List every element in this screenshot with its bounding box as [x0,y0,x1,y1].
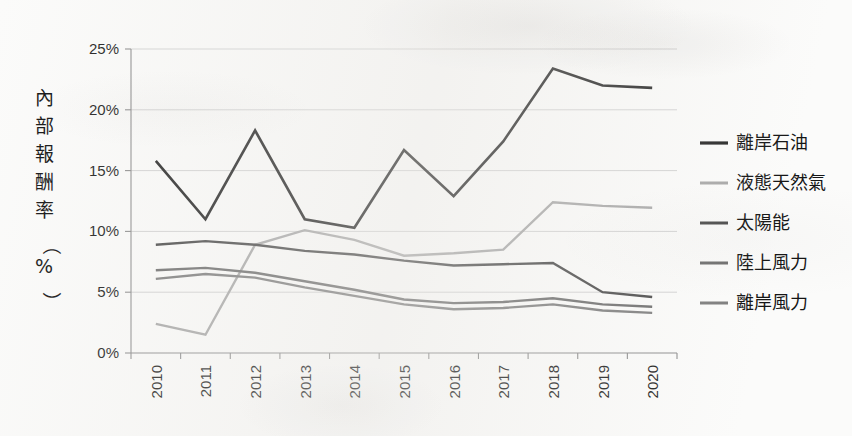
y-axis-title-char-1: 部 [35,115,54,137]
y-axis-title-char-0: 內 [35,87,54,109]
x-tick-label-2010: 2010 [148,365,165,398]
x-tick-label-2013: 2013 [297,365,314,398]
y-axis-title-char-4: 率 [35,199,54,221]
y-tick-label-5%: 5% [97,283,119,300]
legend-label-3: 陸上風力 [736,252,808,273]
x-tick-label-2020: 2020 [644,365,661,398]
data-series-group [156,68,652,334]
y-axis-title-char-5: （ [40,236,62,255]
y-axis-title-char-3: 酬 [35,171,54,193]
y-axis-tick-labels: 0%5%10%15%20%25% [89,40,119,361]
x-tick-label-2019: 2019 [595,365,612,398]
y-tick-label-10%: 10% [89,222,119,239]
series-line-4 [156,274,652,313]
y-tick-label-25%: 25% [89,40,119,57]
x-axis-tick-labels: 2010201120122013201420152016201720182019… [148,365,661,398]
x-tick-label-2018: 2018 [545,365,562,398]
axes-group [125,49,677,359]
y-tick-label-15%: 15% [89,162,119,179]
x-tick-label-2014: 2014 [346,365,363,398]
y-axis-title-char-7: ） [40,292,62,311]
y-axis-title: 內部報酬率（%） [35,87,63,311]
x-tick-label-2017: 2017 [495,365,512,398]
x-tick-label-2011: 2011 [197,365,214,397]
y-tick-label-20%: 20% [89,101,119,118]
x-tick-label-2012: 2012 [247,365,264,398]
series-line-1 [156,202,652,335]
legend-label-2: 太陽能 [736,212,790,233]
y-axis-title-char-2: 報 [35,143,54,165]
y-tick-label-0%: 0% [97,344,119,361]
irr-line-chart-figure: 0%5%10%15%20%25% 20102011201220132014201… [0,0,852,436]
legend-label-1: 液態天然氣 [736,172,826,193]
y-axis-title-char-6: % [35,255,53,277]
x-tick-label-2016: 2016 [446,365,463,398]
chart-svg-canvas: 0%5%10%15%20%25% 20102011201220132014201… [0,0,852,436]
legend-label-4: 離岸風力 [736,292,808,313]
legend-label-0: 離岸石油 [736,132,808,153]
x-tick-label-2015: 2015 [396,365,413,398]
chart-legend: 離岸石油液態天然氣太陽能陸上風力離岸風力 [700,132,826,313]
